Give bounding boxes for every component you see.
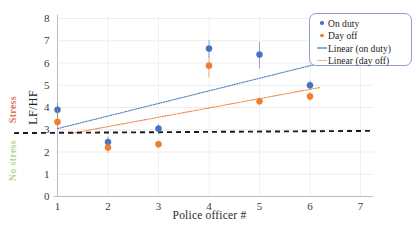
trendlines <box>58 62 326 133</box>
stress-threshold-line <box>14 131 373 133</box>
chart-container: 012345678 1234567 Police officer # LF/HF… <box>0 0 419 236</box>
legend-dot-icon <box>316 21 328 24</box>
legend-dot-icon <box>316 34 328 37</box>
y-tick-label: 0 <box>36 191 50 202</box>
legend-swatch <box>320 21 323 24</box>
x-axis-title: Police officer # <box>0 209 419 221</box>
legend-label: Linear (day off) <box>328 55 389 66</box>
legend-item-linear-on-duty[interactable]: Linear (on duty) <box>316 42 407 54</box>
legend-item-on-duty[interactable]: On duty <box>316 17 407 29</box>
legend-label: On duty <box>328 18 359 29</box>
legend-line-icon <box>316 47 328 48</box>
legend-line-icon <box>316 60 328 61</box>
y-tick-label: 3 <box>36 124 50 135</box>
legend-swatch <box>317 47 327 48</box>
legend-label: Day off <box>328 30 357 41</box>
y-tick-label: 7 <box>36 35 50 46</box>
legend-swatch <box>317 60 327 61</box>
chart-legend[interactable]: On dutyDay offLinear (on duty)Linear (da… <box>309 13 412 66</box>
legend-swatch <box>320 34 323 37</box>
legend-item-day-off[interactable]: Day off <box>316 30 407 42</box>
stress-region-label: Stress <box>7 96 18 123</box>
y-tick-label: 6 <box>36 58 50 69</box>
data-series <box>54 40 313 153</box>
no-stress-region-label: No stress <box>7 140 18 181</box>
y-axis-title: LF/HF <box>26 90 41 125</box>
legend-item-linear-day-off[interactable]: Linear (day off) <box>316 55 407 67</box>
legend-label: Linear (on duty) <box>328 43 391 54</box>
y-tick-label: 1 <box>36 169 50 180</box>
y-tick-label: 8 <box>36 13 50 24</box>
y-tick-label: 2 <box>36 147 50 158</box>
